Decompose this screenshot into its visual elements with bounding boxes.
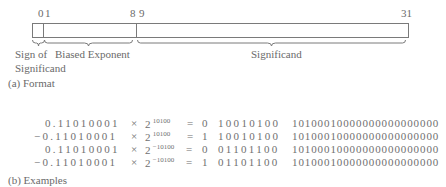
significand-bits: 10100010000000000000000 [292,156,439,168]
base: 2 [145,131,153,143]
sign-bit: 1 [202,130,210,142]
significand-bits: 10100010000000000000000 [292,143,439,155]
equals: = [187,117,196,129]
power: 2−10100 [145,156,174,169]
times-sign: × [131,117,140,129]
exponent-value: −10100 [153,143,174,151]
base: 2 [145,118,153,130]
sign-bit: 1 [202,156,210,168]
exponent-brace [45,40,133,46]
significand-label: Significand [251,48,302,60]
equals: = [186,143,195,155]
equals: = [187,130,196,142]
mantissa: −0.11010001 [34,156,117,168]
mantissa: 0.11010001 [45,143,120,155]
exponent-value: −10100 [153,156,174,164]
exponent-bits: 01101100 [218,143,280,155]
mantissa: 0.11010001 [45,117,120,129]
significand-bits: 10100010000000000000000 [292,117,439,129]
sign-bit: 0 [202,117,210,129]
exponent-value: 10100 [153,130,171,138]
times-sign: × [131,143,140,155]
exponent-bits: 10010100 [218,117,280,129]
equals: = [186,156,195,168]
power: 210100 [145,130,170,143]
exponent-bits: 01101100 [218,156,280,168]
times-sign: × [131,156,140,168]
exponent-label: Biased Exponent [55,48,130,60]
examples-caption: (b) Examples [8,174,67,186]
significand-bits: 10100010000000000000000 [292,130,439,142]
sign-brace [33,40,45,46]
base: 2 [145,157,153,169]
sign-label-line2: Significand [15,62,66,74]
power: 210100 [145,117,170,130]
mantissa: −0.11010001 [34,130,117,142]
times-sign: × [131,130,140,142]
exponent-value: 10100 [153,117,171,125]
sign-label-line1: Sign of [15,48,47,60]
base: 2 [145,144,153,156]
power: 2−10100 [145,143,174,156]
significand-brace [138,40,406,46]
sign-bit: 0 [202,143,210,155]
exponent-bits: 10010100 [218,130,280,142]
format-caption: (a) Format [8,77,55,89]
register-box [33,24,409,38]
